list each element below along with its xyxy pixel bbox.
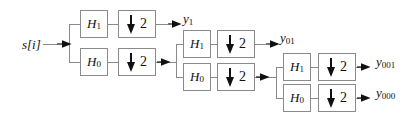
input-signal-label: s[i] <box>22 38 41 51</box>
down-arrow-icon <box>127 53 136 72</box>
filter-block-label: H1 <box>290 60 304 75</box>
filter-block-label: H0 <box>190 70 204 85</box>
downsample-factor: 2 <box>140 55 147 69</box>
filter-block-label: H0 <box>290 91 304 106</box>
filter-block-stage1-highpass[interactable]: H1 <box>80 10 108 38</box>
filter-block-label: H1 <box>87 17 101 32</box>
filter-block-stage1-lowpass[interactable]: H0 <box>80 48 108 76</box>
down-arrow-icon <box>226 35 235 54</box>
downsample-factor: 2 <box>340 60 347 74</box>
down-arrow-icon <box>327 89 336 108</box>
down-arrow-icon <box>226 68 235 87</box>
downsampler-stage1-highpass[interactable]: 2 <box>118 10 156 38</box>
filter-bank-diagram: s[i] H1 H0 2 2 y1 H1 H0 2 2 y01 H1 H0 <box>0 0 413 129</box>
filter-block-stage3-highpass[interactable]: H1 <box>283 53 311 81</box>
down-arrow-icon <box>127 15 136 34</box>
downsampler-stage3-highpass[interactable]: 2 <box>318 53 356 81</box>
downsample-factor: 2 <box>239 37 246 51</box>
output-label-y1: y1 <box>183 12 193 27</box>
output-label-y000: y000 <box>376 86 395 101</box>
downsample-factor: 2 <box>239 70 246 84</box>
filter-block-label: H1 <box>190 37 204 52</box>
down-arrow-icon <box>327 58 336 77</box>
filter-block-stage2-highpass[interactable]: H1 <box>183 30 211 58</box>
downsampler-stage1-lowpass[interactable]: 2 <box>118 48 156 76</box>
downsampler-stage2-lowpass[interactable]: 2 <box>217 63 255 91</box>
downsample-factor: 2 <box>140 17 147 31</box>
filter-block-label: H0 <box>87 55 101 70</box>
output-label-y001: y001 <box>376 55 395 70</box>
downsample-factor: 2 <box>340 91 347 105</box>
filter-block-stage2-lowpass[interactable]: H0 <box>183 63 211 91</box>
filter-block-stage3-lowpass[interactable]: H0 <box>283 84 311 112</box>
output-label-y01: y01 <box>280 31 295 46</box>
downsampler-stage2-highpass[interactable]: 2 <box>217 30 255 58</box>
downsampler-stage3-lowpass[interactable]: 2 <box>318 84 356 112</box>
